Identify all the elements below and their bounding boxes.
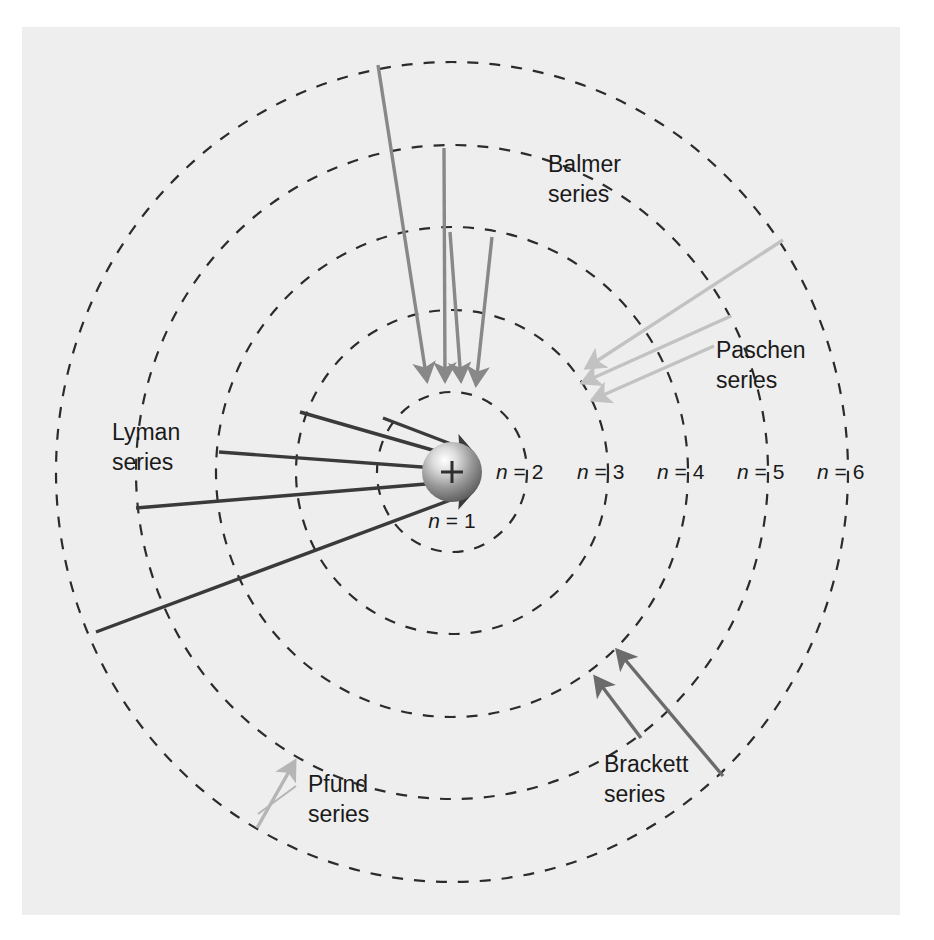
series-label-pfund-line1: Pfund (308, 771, 368, 797)
series-label-pfund: Pfund series (308, 771, 375, 827)
series-label-brackett-line2: series (604, 781, 665, 807)
lyman-arrow-group (96, 412, 476, 632)
series-label-lyman: Lyman series (112, 419, 187, 475)
series-label-pfund-line2: series (308, 801, 369, 827)
series-label-paschen-line1: Paschen (716, 337, 806, 363)
series-label-balmer-line1: Balmer (548, 151, 621, 177)
balmer-arrow-group (378, 65, 492, 385)
orbit-label-n5: n = 5 (737, 460, 784, 483)
series-label-balmer: Balmer series (548, 151, 627, 207)
bohr-model-diagram: n = 1 n = 2 n = 3 n = 4 n = 5 n = 6 (0, 0, 934, 940)
orbit-label-n2: n = 2 (496, 460, 543, 483)
series-label-paschen: Paschen series (716, 337, 812, 393)
balmer-arrow-n4 (450, 232, 461, 381)
series-label-lyman-line2: series (112, 449, 173, 475)
pfund-arrow-group (257, 761, 295, 828)
series-label-brackett-line1: Brackett (604, 751, 689, 777)
brackett-arrow-n5 (595, 677, 641, 738)
balmer-arrow-n5 (444, 148, 445, 381)
series-label-paschen-line2: series (716, 367, 777, 393)
series-label-balmer-line2: series (548, 181, 609, 207)
balmer-arrow-n3 (476, 237, 492, 385)
orbit-label-n4: n = 4 (657, 460, 705, 483)
orbit-label-n2-value: 2 (532, 460, 544, 483)
lyman-arrow-n5 (136, 480, 474, 508)
orbit-label-n5-value: 5 (773, 460, 785, 483)
orbit-label-n4-value: 4 (693, 460, 705, 483)
orbit-label-n3-value: 3 (613, 460, 625, 483)
nucleus-label: n = 1 (428, 509, 475, 532)
series-label-lyman-line1: Lyman (112, 419, 180, 445)
balmer-arrow-n6 (378, 65, 427, 381)
lyman-arrow-n6 (96, 492, 472, 632)
series-label-brackett: Brackett series (604, 751, 695, 807)
orbit-label-group: n = 2 n = 3 n = 4 n = 5 n = 6 (496, 460, 864, 483)
orbit-label-n6-value: 6 (853, 460, 865, 483)
orbit-label-n3: n = 3 (577, 460, 624, 483)
orbit-label-n6: n = 6 (817, 460, 864, 483)
pfund-arrow-n6 (257, 761, 295, 828)
nucleus-group: n = 1 (422, 442, 482, 532)
nucleus-level-value: 1 (464, 509, 476, 532)
figure-root: n = 1 n = 2 n = 3 n = 4 n = 5 n = 6 (0, 0, 934, 940)
